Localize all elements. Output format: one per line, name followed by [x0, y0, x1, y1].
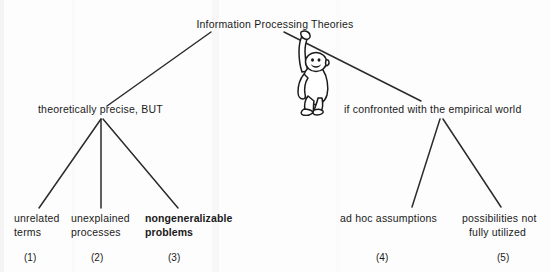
root-node-label: Information Processing Theories: [0, 18, 550, 31]
branch-label-right: if confronted with the empirical world: [344, 103, 521, 116]
edge-left-to-leaf1: [39, 119, 101, 208]
branch-label-left: theoretically precise, BUT: [38, 103, 163, 116]
leaf-number-5: (5): [497, 252, 509, 263]
leaf-label-2-line1: unexplained: [71, 212, 130, 225]
edge-right-to-leaf4: [412, 119, 440, 207]
leaf-label-3-line1: nongeneralizable: [145, 212, 232, 225]
edge-left-to-leaf3: [103, 119, 178, 208]
leaf-label-5-line2: fully utilized: [469, 226, 526, 239]
hanging-monkey-icon: [280, 26, 340, 116]
edge-root-to-left: [107, 32, 211, 106]
leaf-label-1-line2: terms: [14, 226, 41, 239]
leaf-number-4: (4): [376, 252, 388, 263]
leaf-label-1-line1: unrelated: [14, 212, 60, 225]
leaf-label-4-line1: ad hoc assumptions: [340, 212, 437, 225]
leaf-number-3: (3): [168, 252, 180, 263]
leaf-label-2-line2: processes: [71, 226, 121, 239]
edge-right-to-leaf5: [443, 119, 501, 207]
leaf-number-2: (2): [91, 252, 103, 263]
diagram-canvas: Information Processing Theories theoreti…: [0, 0, 550, 272]
leaf-number-1: (1): [24, 252, 36, 263]
leaf-label-3-line2: problems: [145, 226, 193, 239]
leaf-label-5-line1: possibilities not: [462, 212, 537, 225]
